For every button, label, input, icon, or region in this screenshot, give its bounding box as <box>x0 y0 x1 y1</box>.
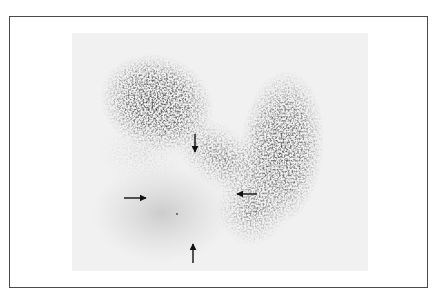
annotation-arrows <box>0 0 442 301</box>
